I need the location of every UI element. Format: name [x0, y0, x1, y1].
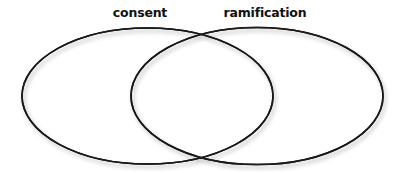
set-label-consent: consent	[113, 5, 167, 20]
venn-diagram: consent ramification	[0, 0, 405, 173]
set-ellipse-ramification	[131, 28, 383, 165]
venn-shapes	[0, 0, 405, 173]
set-label-ramification: ramification	[224, 5, 307, 20]
set-ellipse-consent	[22, 28, 273, 164]
